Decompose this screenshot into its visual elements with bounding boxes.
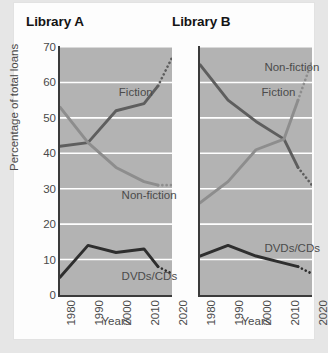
screenshot-root: Library A Percentage of total loans Fict… (0, 0, 328, 353)
chart-panel-library-b: Library B Non-fictionFictionDVDs/CDs 198… (162, 3, 312, 339)
y-tick-label: 10 (43, 254, 56, 266)
x-tick-label: 2020 (317, 300, 328, 326)
plot-svg-library-b (200, 47, 312, 295)
series-line-non-fiction (200, 65, 298, 168)
chart-title-library-b: Library B (172, 14, 230, 29)
series-line-dvds-cds (60, 245, 158, 277)
chart-panel-library-a: Library A Percentage of total loans Fict… (14, 3, 164, 339)
plot-area-library-b: Non-fictionFictionDVDs/CDs 1980199020002… (200, 47, 312, 295)
x-axis-line-library-b (198, 295, 312, 297)
series-line-dvds-cds (298, 267, 312, 274)
y-axis-title-library-a: Percentage of total loans (8, 44, 20, 171)
y-tick-label: 70 (43, 41, 56, 53)
plot-svg-library-a (60, 47, 172, 295)
chart-title-library-a: Library A (26, 14, 84, 29)
y-tick-label: 0 (50, 289, 56, 301)
y-tick-label: 50 (43, 112, 56, 124)
series-line-fiction (60, 86, 158, 146)
x-axis-line-library-a (58, 295, 172, 297)
y-tick-label: 40 (43, 147, 56, 159)
x-axis-title-library-b: Years (200, 315, 312, 327)
series-line-fiction (298, 61, 312, 100)
y-tick-label: 20 (43, 218, 56, 230)
series-line-non-fiction (298, 167, 312, 185)
plot-area-library-a: FictionNon-fictionDVDs/CDs 0102030405060… (60, 47, 172, 295)
y-tick-label: 30 (43, 183, 56, 195)
x-axis-title-library-a: Years (60, 315, 172, 327)
figure-card: Library A Percentage of total loans Fict… (14, 3, 314, 339)
series-line-dvds-cds (200, 245, 298, 266)
y-tick-label: 60 (43, 76, 56, 88)
